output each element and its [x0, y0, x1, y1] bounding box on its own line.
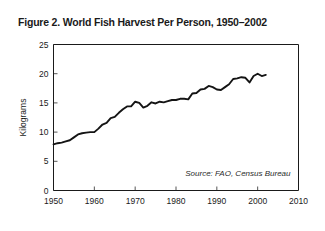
- y-tick-label: 5: [44, 156, 49, 166]
- y-tick-label: 25: [39, 40, 49, 50]
- x-tick-label: 2000: [248, 196, 267, 206]
- data-series-line: [54, 74, 266, 145]
- x-tick-label: 2010: [289, 196, 308, 206]
- x-tick-label: 1980: [167, 196, 186, 206]
- line-chart: 0510152025 1950196019701980199020002010 …: [0, 0, 325, 231]
- x-axis-ticks: 1950196019701980199020002010: [44, 187, 308, 206]
- y-tick-label: 0: [44, 186, 49, 196]
- source-annotation: Source: FAO, Census Bureau: [185, 169, 291, 178]
- y-tick-label: 20: [39, 69, 49, 79]
- x-tick-label: 1990: [207, 196, 226, 206]
- x-tick-label: 1950: [44, 196, 63, 206]
- y-tick-label: 10: [39, 127, 49, 137]
- x-tick-label: 1970: [126, 196, 145, 206]
- x-tick-label: 1960: [85, 196, 104, 206]
- figure-container: Figure 2. World Fish Harvest Per Person,…: [0, 0, 325, 231]
- y-tick-label: 15: [39, 98, 49, 108]
- y-axis-ticks: 0510152025: [39, 40, 57, 196]
- y-axis-label: Kilograms: [18, 99, 28, 137]
